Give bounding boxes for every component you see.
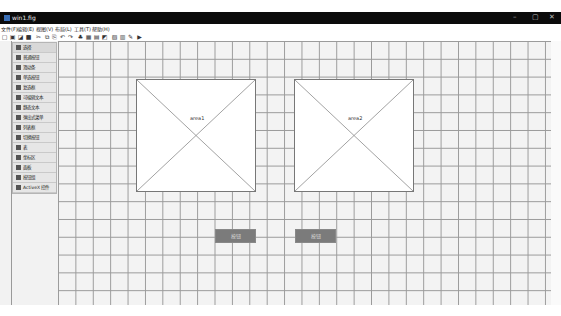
editor-icon[interactable]: ▤ (93, 33, 100, 40)
radio-button-icon (16, 75, 21, 80)
panel-icon (16, 165, 21, 170)
palette-item-popup-menu[interactable]: 弹出式菜单 (13, 113, 56, 123)
palette-item-toggle-button[interactable]: 切换按钮 (13, 133, 56, 143)
table-icon (16, 145, 21, 150)
palette-item-button-group[interactable]: 按钮组 (13, 173, 56, 183)
maximize-icon[interactable]: ▢ (532, 13, 539, 21)
save-as-icon[interactable]: ◪ (17, 33, 24, 40)
property-icon[interactable]: ◩ (101, 33, 108, 40)
app-icon (4, 15, 10, 21)
align-icon[interactable]: ♣ (77, 33, 84, 40)
axes-placeholder-cross (295, 80, 413, 191)
axes-placeholder-cross (137, 80, 255, 191)
save-icon[interactable]: ■ (25, 33, 32, 40)
push-button-2[interactable]: 按钮 (295, 229, 336, 243)
menu-editor-icon[interactable]: ▥ (119, 33, 126, 40)
window-title: win1.fig (12, 14, 36, 21)
redo-icon[interactable]: ↷ (67, 33, 74, 40)
palette-item-checkbox[interactable]: 复选框 (13, 83, 56, 93)
close-icon[interactable]: ✕ (549, 13, 555, 21)
palette-item-select[interactable]: 选择 (13, 43, 56, 53)
run-icon[interactable]: ▶ (136, 33, 143, 40)
component-palette: 选择 普通按钮 滑动条 单选按钮 复选框 可编辑文本 静态文本 弹出式菜单 列表… (12, 42, 57, 194)
pointer-icon (16, 45, 21, 50)
palette-item-static-text[interactable]: 静态文本 (13, 103, 56, 113)
axes-area2[interactable]: area2 (294, 79, 414, 192)
palette-item-axes[interactable]: 坐标区 (13, 153, 56, 163)
palette-item-activex[interactable]: ActiveX 控件 (13, 183, 56, 193)
activex-icon (16, 185, 21, 190)
open-icon[interactable]: ▣ (9, 33, 16, 40)
axes-icon (16, 155, 21, 160)
menu-edit[interactable]: 编辑(E) (17, 25, 34, 32)
palette-item-slider[interactable]: 滑动条 (13, 63, 56, 73)
object-browser-icon[interactable]: ▧ (111, 33, 118, 40)
checkbox-icon (16, 85, 21, 90)
slider-icon (16, 65, 21, 70)
undo-icon[interactable]: ↶ (59, 33, 66, 40)
menu-file[interactable]: 文件(F) (1, 25, 18, 32)
copy-icon[interactable]: ⧉ (43, 33, 50, 40)
menu-tools[interactable]: 工具(T) (74, 25, 91, 32)
palette-item-push-button[interactable]: 普通按钮 (13, 53, 56, 63)
palette-item-panel[interactable]: 面板 (13, 163, 56, 173)
menu-view[interactable]: 视图(V) (36, 25, 53, 32)
menu-help[interactable]: 帮助(H) (92, 25, 110, 32)
menu-layout[interactable]: 布局(L) (55, 25, 72, 32)
workspace-right-margin (551, 41, 561, 305)
bottom-margin (0, 305, 561, 316)
workspace: 选择 普通按钮 滑动条 单选按钮 复选框 可编辑文本 静态文本 弹出式菜单 列表… (0, 41, 561, 305)
distribute-icon[interactable]: ▦ (85, 33, 92, 40)
palette-item-edit-text[interactable]: 可编辑文本 (13, 93, 56, 103)
title-bar: win1.fig – ▢ ✕ (0, 12, 561, 24)
toggle-button-icon (16, 135, 21, 140)
static-text-icon (16, 105, 21, 110)
m-file-icon[interactable]: ✎ (127, 33, 134, 40)
axes-area1[interactable]: area1 (136, 79, 256, 192)
popup-menu-icon (16, 115, 21, 120)
palette-item-table[interactable]: 表 (13, 143, 56, 153)
cut-icon[interactable]: ✂ (35, 33, 42, 40)
push-button-icon (16, 55, 21, 60)
minimize-icon[interactable]: – (513, 13, 517, 21)
palette-item-radio-button[interactable]: 单选按钮 (13, 73, 56, 83)
menu-bar: 文件(F) 编辑(E) 视图(V) 布局(L) 工具(T) 帮助(H) (0, 24, 561, 32)
palette-item-listbox[interactable]: 列表框 (13, 123, 56, 133)
edit-text-icon (16, 95, 21, 100)
paste-icon[interactable]: ⎘ (51, 33, 58, 40)
new-icon[interactable]: ▢ (1, 33, 8, 40)
area1-label: area1 (190, 115, 204, 121)
push-button-1[interactable]: 按钮 (215, 229, 256, 243)
toolbar: ▢ ▣ ◪ ■ ✂ ⧉ ⎘ ↶ ↷ ♣ ▦ ▤ ◩ ▧ ▥ ✎ ▶ (0, 32, 561, 41)
button-group-icon (16, 175, 21, 180)
area2-label: area2 (348, 115, 362, 121)
listbox-icon (16, 125, 21, 130)
